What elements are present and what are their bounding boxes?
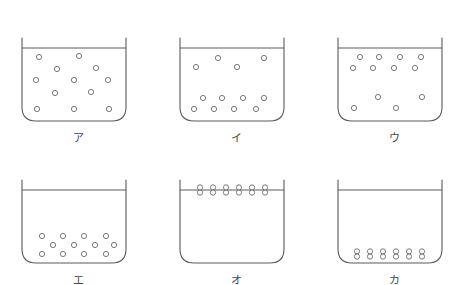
beaker-e: エ <box>0 142 158 284</box>
beaker-ka-label: カ <box>316 271 474 285</box>
particle <box>36 54 41 59</box>
beaker-u-drawing <box>316 0 474 142</box>
beaker-i-drawing <box>158 0 316 142</box>
particle <box>211 106 216 111</box>
particle <box>92 242 97 247</box>
particle <box>76 53 81 58</box>
particle <box>210 190 215 195</box>
particle <box>350 65 355 70</box>
particle <box>370 65 375 70</box>
particle <box>71 77 76 82</box>
particle <box>52 90 57 95</box>
particle <box>367 249 372 254</box>
particle <box>357 54 362 59</box>
particle-group <box>33 53 111 111</box>
beaker-ka-drawing <box>316 142 474 284</box>
particle <box>249 185 254 190</box>
particle <box>406 249 411 254</box>
particle <box>33 77 38 82</box>
particle <box>391 65 396 70</box>
beaker-diagram-figure: アイウエオカ <box>0 0 474 285</box>
beaker-a-drawing <box>0 0 158 142</box>
particle <box>393 254 398 259</box>
beaker-o-label: オ <box>158 271 316 285</box>
beaker-o: オ <box>158 142 316 284</box>
particle <box>354 254 359 259</box>
particle-group <box>191 55 266 111</box>
particle <box>262 185 267 190</box>
beaker-ka: カ <box>316 142 474 284</box>
particle <box>39 251 44 256</box>
particle <box>210 185 215 190</box>
beaker-outline <box>338 180 442 263</box>
particle <box>54 66 59 71</box>
particle <box>60 233 65 238</box>
particle <box>103 251 108 256</box>
particle <box>50 242 55 247</box>
particle <box>223 190 228 195</box>
particle <box>111 242 116 247</box>
particle <box>81 233 86 238</box>
particle <box>354 249 359 254</box>
particle <box>418 54 423 59</box>
particle <box>419 94 424 99</box>
particle <box>376 54 381 59</box>
particle <box>406 254 411 259</box>
particle <box>193 64 198 69</box>
particle <box>419 254 424 259</box>
particle <box>60 251 65 256</box>
particle-group <box>39 233 116 256</box>
beaker-a: ア <box>0 0 158 142</box>
particle <box>240 95 245 100</box>
particle <box>397 54 402 59</box>
particle <box>105 77 110 82</box>
particle <box>249 190 254 195</box>
particle <box>261 55 266 60</box>
particle <box>253 106 258 111</box>
particle-group <box>350 54 424 110</box>
particle <box>234 64 239 69</box>
particle <box>351 105 356 110</box>
particle <box>93 65 98 70</box>
particle <box>236 185 241 190</box>
particle <box>200 95 205 100</box>
particle <box>191 106 196 111</box>
beaker-e-label: エ <box>0 271 158 285</box>
particle <box>393 105 398 110</box>
particle-group <box>354 249 424 259</box>
particle <box>215 55 220 60</box>
beaker-o-drawing <box>158 142 316 284</box>
particle <box>39 233 44 238</box>
beaker-u: ウ <box>316 0 474 142</box>
beaker-i: イ <box>158 0 316 142</box>
particle <box>380 249 385 254</box>
particle <box>262 190 267 195</box>
particle <box>71 242 76 247</box>
particle <box>219 95 224 100</box>
particle <box>367 254 372 259</box>
particle <box>197 185 202 190</box>
particle <box>197 190 202 195</box>
particle <box>88 89 93 94</box>
particle <box>419 249 424 254</box>
particle <box>261 95 266 100</box>
particle <box>393 249 398 254</box>
particle <box>71 106 76 111</box>
particle <box>34 106 39 111</box>
particle <box>375 94 380 99</box>
beaker-outline <box>180 180 284 263</box>
particle <box>380 254 385 259</box>
particle <box>231 106 236 111</box>
beaker-outline <box>22 180 126 263</box>
particle <box>223 185 228 190</box>
particle <box>81 251 86 256</box>
particle <box>412 65 417 70</box>
particle <box>103 233 108 238</box>
particle <box>236 190 241 195</box>
beaker-e-drawing <box>0 142 158 284</box>
particle <box>106 106 111 111</box>
